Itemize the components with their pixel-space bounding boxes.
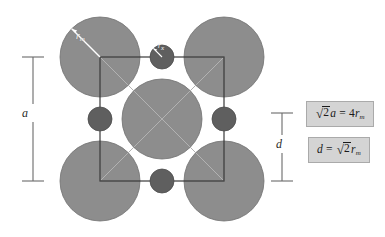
small-atom-radius-subscript: x bbox=[161, 44, 164, 52]
formula-1-lhs-variable: a bbox=[330, 107, 336, 119]
formula-1-operator: = bbox=[339, 107, 346, 119]
small-atom-edge-right bbox=[212, 107, 236, 131]
formula-2-operator: = bbox=[326, 143, 333, 155]
unit-cell-square-group bbox=[100, 57, 224, 181]
formula-2-lhs-variable: d bbox=[317, 143, 323, 155]
radicand-1: 2 bbox=[322, 106, 330, 119]
small-atom-radius-label: rx bbox=[158, 41, 164, 52]
formula-cell-edge-relation: √2a=4rm bbox=[306, 101, 374, 127]
large-atom-radius-label: rm bbox=[76, 31, 85, 43]
small-atom-edge-bottom bbox=[150, 169, 174, 193]
sqrt-group-2: √2 bbox=[336, 142, 351, 156]
cell-edge-label-a: a bbox=[22, 106, 28, 121]
formula-2-rhs-subscript: m bbox=[356, 149, 361, 157]
interstitial-gap-label-d: d bbox=[276, 137, 282, 152]
figure-root: a d rm rx √2a=4rm d=√2rm bbox=[0, 0, 385, 237]
sqrt-group-1: √2 bbox=[315, 106, 330, 120]
large-atom-radius-subscript: m bbox=[80, 35, 85, 43]
small-atom-edge-left bbox=[88, 107, 112, 131]
dimension-line-d bbox=[271, 113, 293, 181]
formula-interstitial-diameter: d=√2rm bbox=[308, 137, 370, 163]
radicand-2: 2 bbox=[343, 142, 351, 155]
formula-1-rhs-subscript: m bbox=[360, 113, 365, 121]
